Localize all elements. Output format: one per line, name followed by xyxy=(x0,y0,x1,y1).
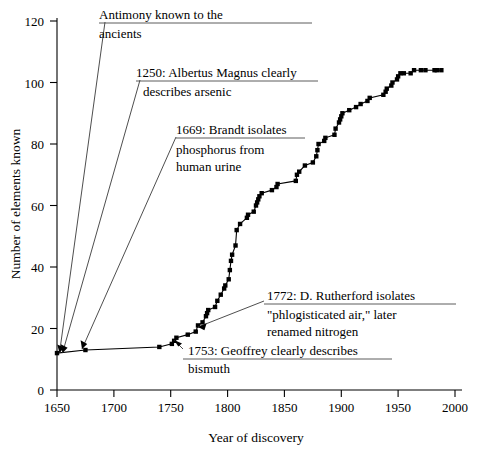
data-point-marker xyxy=(246,213,250,217)
x-tick-label-1900: 1900 xyxy=(328,400,354,415)
annotation-antimony: Antimony known to the ancients xyxy=(99,7,312,41)
data-point-marker xyxy=(390,80,394,84)
data-point-marker xyxy=(215,299,219,303)
data-point-marker xyxy=(83,348,87,352)
data-point-marker xyxy=(219,292,223,296)
data-point-marker xyxy=(314,154,318,158)
data-point-marker xyxy=(234,228,238,232)
x-tick-label-1800: 1800 xyxy=(215,400,241,415)
chart-container: 120 100 80 60 40 20 0 1650 1700 1750 180… xyxy=(0,0,479,456)
x-axis-ticks: 1650 1700 1750 1800 1850 1900 1950 2000 xyxy=(44,390,468,415)
data-point-marker xyxy=(358,102,362,106)
annotation-arsenic-line-1: 1250: Albertus Magnus clearly xyxy=(136,65,297,80)
data-point-marker xyxy=(186,332,190,336)
data-point-marker xyxy=(412,68,416,72)
data-point-marker xyxy=(275,182,279,186)
data-point-marker xyxy=(229,259,233,263)
data-point-marker xyxy=(228,268,232,272)
data-point-marker xyxy=(194,329,198,333)
x-tick-label-1950: 1950 xyxy=(385,400,411,415)
data-point-marker xyxy=(259,191,263,195)
data-point-marker xyxy=(252,209,256,213)
annotation-nitrogen-line-3: renamed nitrogen xyxy=(267,324,359,339)
data-point-marker xyxy=(402,71,406,75)
data-point-marker xyxy=(227,277,231,281)
data-point-marker xyxy=(157,345,161,349)
data-point-marker xyxy=(223,283,227,287)
y-tick-label-100: 100 xyxy=(25,76,45,91)
data-point-marker xyxy=(55,351,59,355)
x-tick-label-1700: 1700 xyxy=(101,400,127,415)
data-point-marker xyxy=(340,111,344,115)
data-point-marker xyxy=(233,243,237,247)
x-tick-label-1750: 1750 xyxy=(158,400,184,415)
data-point-marker xyxy=(347,108,351,112)
x-axis-title: Year of discovery xyxy=(208,430,304,445)
x-tick-label-2000: 2000 xyxy=(442,400,468,415)
y-tick-label-20: 20 xyxy=(31,322,44,337)
annotation-phosphorus: 1669: Brandt isolates phosphorus from hu… xyxy=(176,122,305,174)
annotation-bismuth: 1753: Geoffrey clearly describes bismuth xyxy=(183,343,392,376)
annotation-bismuth-line-2: bismuth xyxy=(188,361,230,376)
data-point-marker xyxy=(213,305,217,309)
leader-arsenic xyxy=(63,80,141,353)
annotation-arsenic: 1250: Albertus Magnus clearly describes … xyxy=(136,65,318,99)
data-point-marker xyxy=(316,142,320,146)
annotation-antimony-line-2: ancients xyxy=(99,26,142,41)
annotation-arsenic-line-2: describes arsenic xyxy=(143,84,232,99)
arrowhead-bismuth xyxy=(174,340,182,347)
data-point-marker xyxy=(439,68,443,72)
data-point-marker xyxy=(419,68,423,72)
y-tick-label-80: 80 xyxy=(31,137,44,152)
annotation-antimony-line-1: Antimony known to the xyxy=(99,7,223,22)
annotation-phosphorus-line-3: human urine xyxy=(176,159,242,174)
y-tick-label-120: 120 xyxy=(25,14,45,29)
leader-phosphorus xyxy=(82,137,176,349)
data-point-marker xyxy=(315,148,319,152)
annotation-nitrogen-line-1: 1772: D. Rutherford isolates xyxy=(267,288,415,303)
annotation-nitrogen-line-2: "phlogisticated air," later xyxy=(267,307,397,322)
data-point-marker xyxy=(435,68,439,72)
data-point-marker xyxy=(200,320,204,324)
data-point-marker xyxy=(238,222,242,226)
data-point-marker xyxy=(332,133,336,137)
data-point-marker xyxy=(333,126,337,130)
leader-antimony xyxy=(60,22,106,353)
annotation-phosphorus-line-1: 1669: Brandt isolates xyxy=(176,122,287,137)
y-tick-label-40: 40 xyxy=(31,260,44,275)
data-point-marker xyxy=(270,188,274,192)
data-point-marker xyxy=(368,96,372,100)
data-point-marker xyxy=(323,136,327,140)
elements-discovery-line-chart: 120 100 80 60 40 20 0 1650 1700 1750 180… xyxy=(0,0,479,456)
data-point-marker xyxy=(385,86,389,90)
data-point-marker xyxy=(297,169,301,173)
annotation-nitrogen: 1772: D. Rutherford isolates "phlogistic… xyxy=(264,288,456,339)
y-tick-label-60: 60 xyxy=(31,199,44,214)
annotation-phosphorus-line-2: phosphorus from xyxy=(176,142,264,157)
data-point-marker xyxy=(354,105,358,109)
y-axis-title: Number of elements known xyxy=(8,129,23,280)
data-point-marker xyxy=(174,336,178,340)
x-tick-label-1650: 1650 xyxy=(44,400,70,415)
annotation-bismuth-line-1: 1753: Geoffrey clearly describes xyxy=(188,343,358,358)
data-point-marker xyxy=(423,68,427,72)
y-axis-ticks: 120 100 80 60 40 20 0 xyxy=(25,14,58,398)
data-point-marker xyxy=(294,179,298,183)
y-tick-label-0: 0 xyxy=(38,383,45,398)
x-tick-label-1850: 1850 xyxy=(271,400,297,415)
data-point-marker xyxy=(303,163,307,167)
data-point-marker xyxy=(206,308,210,312)
data-point-marker xyxy=(311,160,315,164)
arrowhead-phosphorus xyxy=(81,340,88,349)
data-point-marker xyxy=(230,253,234,257)
